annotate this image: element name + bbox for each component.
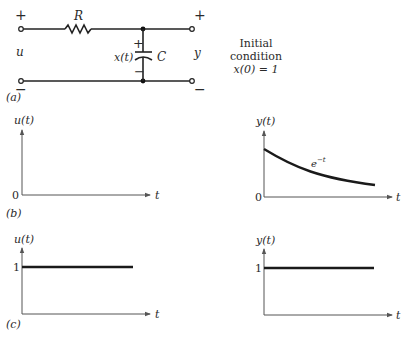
rc-circuit: + u − R + x(t) C − + y − [15, 7, 206, 97]
figure: + u − R + x(t) C − + y − Initial conditi… [0, 0, 409, 346]
resistor-icon [65, 25, 91, 33]
plot-c-output: y(t) t 1 [255, 234, 401, 322]
output-minus-sign: − [194, 81, 206, 97]
capacitor-label: C [157, 50, 166, 64]
y-axis-label: y(t) [255, 115, 275, 128]
output-label: y [193, 46, 201, 60]
origin-label: 0 [12, 189, 19, 202]
cap-minus-sign: − [134, 64, 145, 79]
input-label: u [16, 45, 24, 59]
output-plus-sign: + [194, 7, 206, 23]
resistor-label: R [73, 9, 83, 23]
note-line-2: condition [230, 50, 282, 63]
y-axis-label: u(t) [14, 233, 34, 246]
plot-b-output: y(t) t 0 e−t [255, 115, 401, 204]
level-label: 1 [255, 262, 262, 275]
level-label: 1 [13, 261, 20, 274]
origin-label: 0 [255, 191, 262, 204]
y-axis-label: y(t) [255, 234, 275, 247]
plot-c-input: u(t) t 1 [13, 233, 160, 321]
plot-b-input: u(t) t 0 [12, 114, 160, 202]
cap-voltage-label: x(t) [114, 51, 133, 64]
initial-condition-note: Initial condition x(0) = 1 [230, 37, 282, 76]
x-axis-label: t [155, 189, 160, 202]
panel-a-label: (a) [6, 91, 21, 104]
panel-c-label: (c) [6, 318, 21, 331]
curve-label: e−t [311, 156, 326, 169]
x-axis-label: t [155, 308, 160, 321]
panel-b-label: (b) [6, 207, 22, 220]
x-axis-label: t [396, 191, 401, 204]
x-axis-label: t [396, 309, 401, 322]
input-plus-sign: + [15, 7, 27, 23]
decay-curve [264, 149, 375, 185]
curve-label-exponent: −t [317, 156, 326, 164]
note-line-1: Initial [240, 37, 273, 50]
y-axis-label: u(t) [14, 114, 34, 127]
input-terminal-top [19, 27, 24, 32]
note-line-3: x(0) = 1 [234, 63, 279, 76]
output-terminal-top [190, 27, 195, 32]
cap-plus-sign: + [133, 36, 144, 51]
